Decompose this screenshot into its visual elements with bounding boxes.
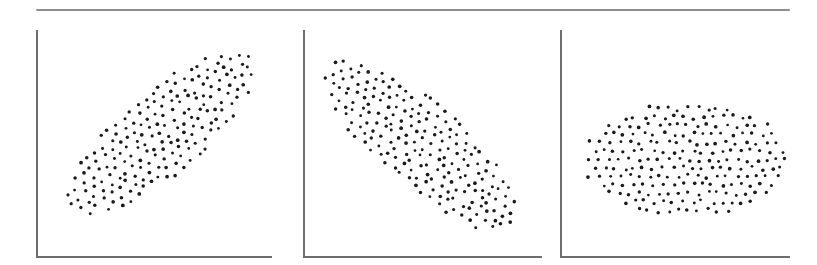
scatter-point	[190, 78, 194, 82]
scatter-point	[395, 106, 398, 109]
scatter-point	[628, 125, 632, 128]
scatter-point	[484, 219, 487, 222]
scatter-point	[739, 202, 743, 206]
scatter-point	[705, 142, 709, 146]
scatter-point	[466, 164, 469, 167]
scatter-point	[87, 166, 90, 169]
scatter-point	[492, 175, 495, 178]
scatter-point	[113, 157, 116, 160]
scatter-point	[165, 175, 169, 179]
scatter-point	[464, 149, 467, 152]
scatter-point	[388, 96, 391, 99]
scatter-point	[235, 96, 238, 99]
scatter-point	[140, 133, 144, 137]
scatter-point	[128, 110, 131, 113]
scatter-point	[357, 71, 360, 74]
scatter-point	[587, 158, 590, 161]
scatter-point	[387, 85, 391, 89]
scatter-point	[105, 128, 109, 132]
scatter-point	[641, 182, 644, 185]
scatter-point	[189, 159, 192, 162]
scatter-point	[481, 177, 484, 180]
scatter-point	[173, 119, 176, 122]
scatter-point	[73, 189, 76, 192]
scatter-point	[484, 169, 488, 173]
scatter-point	[234, 76, 237, 79]
scatter-point	[696, 125, 699, 128]
scatter-point	[85, 156, 89, 160]
scatter-point	[745, 141, 749, 145]
scatter-point	[436, 102, 440, 106]
scatter-point	[178, 100, 181, 103]
scatter-point	[774, 157, 777, 160]
scatter-point	[225, 73, 229, 77]
scatter-point	[179, 154, 182, 157]
scatter-point	[465, 142, 468, 145]
scatter-point	[664, 117, 667, 120]
scatter-point	[183, 77, 186, 80]
scatter-point	[114, 132, 118, 136]
scatter-point	[232, 114, 235, 117]
scatter-point	[707, 207, 710, 210]
scatter-point	[724, 174, 727, 177]
scatter-point	[470, 201, 474, 205]
scatter-point	[476, 163, 479, 166]
scatter-point	[118, 186, 122, 190]
scatter-point	[404, 141, 408, 145]
scatter-point	[731, 201, 734, 204]
scatter-point	[421, 136, 424, 139]
scatter-point	[595, 150, 598, 153]
scatter-point	[655, 141, 658, 144]
scatter-point	[688, 139, 692, 143]
scatter-point	[344, 106, 347, 109]
scatter-point	[230, 68, 233, 71]
scatter-point	[366, 70, 370, 74]
scatter-point	[513, 200, 517, 204]
scatter-point	[334, 107, 337, 110]
scatter-point	[486, 160, 490, 164]
scatter-point	[365, 121, 368, 124]
scatter-point	[154, 113, 157, 116]
scatter-point	[364, 88, 367, 91]
scatter-point	[89, 212, 92, 215]
scatter-point	[468, 218, 472, 222]
scatter-point	[677, 207, 680, 210]
scatter-point	[673, 183, 676, 186]
scatter-point	[638, 207, 641, 210]
scatter-point	[782, 151, 785, 154]
scatter-point	[681, 114, 685, 118]
scatter-point	[419, 164, 423, 168]
scatter-point	[719, 165, 722, 168]
scatter-point	[668, 211, 671, 214]
scatter-point	[229, 58, 232, 61]
scatter-point	[405, 153, 408, 156]
scatter-point	[634, 198, 637, 201]
scatter-point	[129, 190, 132, 193]
scatter-point	[415, 177, 418, 180]
scatter-point	[730, 183, 733, 186]
scatter-point	[398, 171, 401, 174]
scatter-point	[658, 193, 661, 196]
scatter-point	[196, 117, 199, 120]
scatter-point	[173, 72, 176, 75]
scatter-point	[612, 167, 616, 171]
scatter-point	[153, 100, 156, 103]
scatter-point	[474, 226, 477, 229]
scatter-point	[403, 109, 407, 113]
scatter-point	[449, 128, 453, 132]
scatter-point	[684, 123, 687, 126]
scatter-point	[650, 140, 653, 143]
scatter-point	[714, 125, 718, 129]
scatter-point	[704, 122, 708, 126]
scatter-point	[737, 158, 740, 161]
scatter-point	[640, 148, 643, 151]
scatter-point	[666, 176, 669, 179]
scatter-point	[468, 206, 472, 210]
scatter-point	[83, 181, 86, 184]
scatter-point	[624, 202, 628, 206]
scatter-point	[620, 175, 623, 178]
scatter-point	[783, 157, 786, 160]
scatter-point	[693, 181, 697, 185]
scatter-point	[399, 126, 403, 130]
scatter-point	[757, 159, 761, 163]
